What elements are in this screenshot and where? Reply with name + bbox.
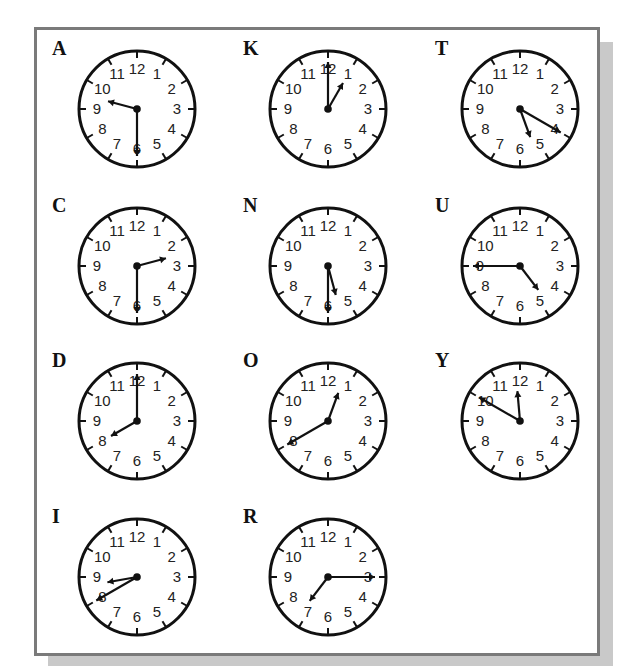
svg-text:11: 11	[492, 65, 508, 82]
svg-text:6: 6	[516, 452, 524, 469]
svg-text:12: 12	[512, 60, 529, 77]
clock-face-icon: 121234567891011	[435, 361, 625, 511]
svg-text:3: 3	[173, 100, 181, 117]
clock-face-icon: 121234567891011	[435, 206, 625, 356]
svg-text:1: 1	[153, 65, 161, 82]
svg-text:2: 2	[550, 237, 558, 254]
svg-text:8: 8	[481, 277, 489, 294]
clock-face-icon: 121234567891011	[52, 517, 242, 666]
svg-text:2: 2	[358, 80, 366, 97]
svg-text:2: 2	[358, 392, 366, 409]
svg-text:10: 10	[285, 548, 302, 565]
svg-text:4: 4	[550, 432, 558, 449]
clock-face-icon: 121234567891011	[243, 206, 433, 356]
clock-i: I121234567891011	[52, 517, 242, 666]
svg-text:12: 12	[320, 217, 337, 234]
svg-text:4: 4	[358, 432, 366, 449]
clock-y: Y121234567891011	[435, 361, 625, 511]
svg-text:6: 6	[516, 140, 524, 157]
svg-text:11: 11	[300, 65, 316, 82]
clock-d: D121234567891011	[52, 361, 242, 511]
svg-text:7: 7	[113, 603, 121, 620]
clock-r: R121234567891011	[243, 517, 433, 666]
svg-text:8: 8	[98, 120, 106, 137]
svg-text:10: 10	[94, 237, 111, 254]
svg-text:1: 1	[153, 377, 161, 394]
svg-text:10: 10	[477, 237, 494, 254]
svg-text:3: 3	[364, 257, 372, 274]
svg-text:2: 2	[167, 237, 175, 254]
svg-text:4: 4	[167, 120, 175, 137]
svg-text:4: 4	[358, 588, 366, 605]
svg-text:8: 8	[289, 120, 297, 137]
svg-text:6: 6	[133, 608, 141, 625]
clock-u: U121234567891011	[435, 206, 625, 356]
svg-text:5: 5	[153, 447, 161, 464]
svg-text:11: 11	[300, 377, 316, 394]
svg-text:2: 2	[550, 80, 558, 97]
svg-text:10: 10	[94, 80, 111, 97]
svg-text:9: 9	[93, 100, 101, 117]
svg-text:1: 1	[153, 533, 161, 550]
svg-text:2: 2	[358, 548, 366, 565]
svg-text:11: 11	[109, 65, 125, 82]
clock-o: O121234567891011	[243, 361, 433, 511]
svg-text:6: 6	[516, 297, 524, 314]
svg-text:2: 2	[167, 80, 175, 97]
svg-text:8: 8	[98, 432, 106, 449]
svg-text:5: 5	[153, 292, 161, 309]
svg-text:1: 1	[153, 222, 161, 239]
svg-text:3: 3	[364, 412, 372, 429]
svg-text:12: 12	[512, 217, 529, 234]
svg-text:3: 3	[173, 412, 181, 429]
svg-text:1: 1	[344, 65, 352, 82]
svg-text:9: 9	[93, 568, 101, 585]
svg-text:5: 5	[344, 603, 352, 620]
svg-text:11: 11	[109, 533, 125, 550]
svg-text:6: 6	[133, 452, 141, 469]
svg-text:3: 3	[173, 257, 181, 274]
svg-text:10: 10	[94, 548, 111, 565]
clock-face-icon: 121234567891011	[52, 49, 242, 199]
svg-text:7: 7	[113, 447, 121, 464]
svg-text:9: 9	[284, 568, 292, 585]
svg-text:1: 1	[536, 377, 544, 394]
svg-text:2: 2	[550, 392, 558, 409]
svg-text:12: 12	[129, 217, 146, 234]
svg-text:12: 12	[320, 372, 337, 389]
svg-text:4: 4	[167, 432, 175, 449]
svg-text:9: 9	[284, 257, 292, 274]
svg-text:5: 5	[153, 135, 161, 152]
svg-text:7: 7	[113, 292, 121, 309]
svg-text:9: 9	[476, 412, 484, 429]
svg-text:11: 11	[300, 222, 316, 239]
svg-text:10: 10	[285, 392, 302, 409]
clock-face-icon: 121234567891011	[243, 517, 433, 666]
svg-text:10: 10	[94, 392, 111, 409]
svg-text:7: 7	[496, 447, 504, 464]
svg-text:8: 8	[98, 277, 106, 294]
svg-text:3: 3	[556, 257, 564, 274]
svg-text:10: 10	[477, 80, 494, 97]
svg-text:6: 6	[324, 608, 332, 625]
svg-text:4: 4	[550, 277, 558, 294]
svg-text:11: 11	[300, 533, 316, 550]
clock-face-icon: 121234567891011	[52, 361, 242, 511]
clock-face-icon: 121234567891011	[243, 361, 433, 511]
clock-c: C121234567891011	[52, 206, 242, 356]
clock-k: K121234567891011	[243, 49, 433, 199]
svg-text:3: 3	[556, 100, 564, 117]
svg-text:10: 10	[285, 80, 302, 97]
svg-text:2: 2	[167, 392, 175, 409]
clock-t: T121234567891011	[435, 49, 625, 199]
svg-text:5: 5	[344, 135, 352, 152]
svg-text:7: 7	[113, 135, 121, 152]
clock-face-icon: 121234567891011	[435, 49, 625, 199]
svg-text:8: 8	[481, 120, 489, 137]
svg-text:7: 7	[496, 135, 504, 152]
svg-text:6: 6	[324, 140, 332, 157]
svg-text:9: 9	[476, 100, 484, 117]
svg-text:12: 12	[512, 372, 529, 389]
svg-text:5: 5	[344, 292, 352, 309]
svg-text:5: 5	[536, 135, 544, 152]
